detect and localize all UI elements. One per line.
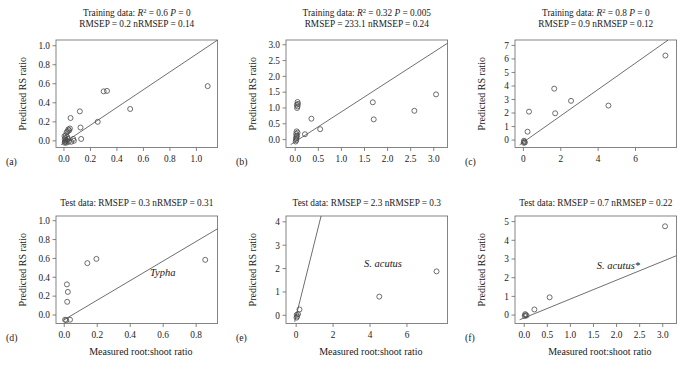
- data-point-marker: [78, 125, 83, 130]
- x-tick-label: 0.4: [111, 154, 123, 164]
- y-axis-label: Predicted RS ratio: [17, 233, 28, 306]
- y-tick-label: 1: [505, 291, 510, 301]
- regression-line: [520, 40, 669, 145]
- y-tick-label: 0.0: [38, 136, 50, 146]
- y-tick-label: 0.8: [38, 60, 50, 70]
- chart-panel-d: Test data: RMSEP = 0.3 nRMSEP = 0.310.00…: [0, 192, 230, 383]
- figure-root: Training data: R2 = 0.6 P = 0RMSEP = 0.2…: [0, 0, 689, 383]
- y-tick-label: 0.0: [268, 135, 280, 145]
- data-point-marker: [411, 108, 416, 113]
- y-tick-label: 4: [505, 235, 510, 245]
- panel-title-line1: Test data: RMSEP = 2.3 nRMSEP = 0.3: [292, 198, 441, 208]
- x-axis-label: Measured root:shoot ratio: [548, 345, 651, 356]
- panel-title-line1: Training data: R2 = 0.32 P = 0.005: [302, 7, 431, 19]
- y-tick-label: 2.0: [268, 72, 280, 82]
- y-tick-label: 0.6: [38, 253, 50, 263]
- x-axis: 0246: [293, 323, 409, 339]
- y-axis: 0.00.51.01.52.02.53.0: [268, 40, 286, 145]
- x-tick-label: 1.0: [565, 329, 577, 339]
- y-tick-label: 2: [505, 272, 510, 282]
- x-axis: 0.00.20.40.60.81.0: [58, 148, 202, 164]
- y-axis: 0.00.20.40.60.81.0: [38, 216, 56, 320]
- x-axis-label: Measured root:shoot ratio: [319, 345, 422, 356]
- x-tick-label: 1.5: [588, 329, 600, 339]
- x-tick-label: 4: [367, 329, 372, 339]
- y-tick-label: 3: [505, 254, 510, 264]
- y-tick-label: 1.0: [38, 41, 50, 51]
- data-point-marker: [371, 117, 376, 122]
- x-tick-label: 0.2: [91, 329, 103, 339]
- chart-panel-e: Test data: RMSEP = 2.3 nRMSEP = 0.302460…: [230, 192, 460, 383]
- data-point-marker: [65, 299, 70, 304]
- y-axis: 01234567: [505, 41, 516, 146]
- x-axis: 0.00.51.01.52.02.53.0: [519, 323, 669, 339]
- data-points: [62, 84, 210, 146]
- panel-title-line1: Test data: RMSEP = 0.7 nRMSEP = 0.22: [519, 198, 672, 208]
- y-tick-label: 3: [505, 95, 510, 105]
- y-axis: 012345: [505, 216, 516, 319]
- x-axis-label: Measured root:shoot ratio: [89, 345, 192, 356]
- y-tick-label: 0.2: [38, 117, 50, 127]
- data-points: [63, 256, 208, 322]
- y-axis-label: Predicted RS ratio: [476, 57, 487, 130]
- x-tick-label: 2: [559, 154, 564, 164]
- y-tick-label: 3: [275, 240, 280, 250]
- regression-line: [290, 43, 447, 144]
- data-point-marker: [434, 268, 439, 273]
- species-annotation: S. acutus: [364, 257, 402, 268]
- y-tick-label: 5: [505, 68, 510, 78]
- y-axis-label: Predicted RS ratio: [247, 57, 258, 130]
- y-tick-label: 2.5: [268, 56, 280, 66]
- y-tick-label: 0: [505, 135, 510, 145]
- regression-line: [294, 216, 320, 322]
- panel-title-line2: RMSEP = 0.9 nRMSEP = 0.12: [539, 19, 654, 29]
- x-tick-label: 0.5: [312, 154, 324, 164]
- plot-frame: [515, 216, 677, 324]
- panel-title-line1: Training data: R2 = 0.6 P = 0: [83, 7, 191, 19]
- y-tick-label: 2: [505, 108, 510, 118]
- data-point-marker: [68, 317, 73, 322]
- y-tick-label: 6: [505, 54, 510, 64]
- x-tick-label: 0.6: [138, 154, 150, 164]
- x-tick-label: 0.0: [519, 329, 531, 339]
- plot-frame: [56, 216, 218, 324]
- x-tick-label: 4: [596, 154, 601, 164]
- x-tick-label: 0.8: [164, 154, 176, 164]
- data-point-marker: [663, 223, 668, 228]
- x-tick-label: 2.0: [611, 329, 623, 339]
- y-tick-label: 0.8: [38, 234, 50, 244]
- x-tick-label: 0.6: [157, 329, 169, 339]
- x-tick-label: 1.5: [358, 154, 370, 164]
- data-point-marker: [606, 103, 611, 108]
- x-tick-label: 2.5: [634, 329, 646, 339]
- data-point-marker: [370, 100, 375, 105]
- data-point-marker: [205, 84, 210, 89]
- x-tick-label: 0.0: [58, 329, 70, 339]
- x-tick-label: 0.5: [542, 329, 554, 339]
- x-tick-label: 2.0: [381, 154, 393, 164]
- panel-title-line1: Training data: R2 = 0.8 P = 0: [542, 7, 650, 19]
- x-tick-label: 0.8: [190, 329, 202, 339]
- y-tick-label: 2: [275, 263, 280, 273]
- y-tick-label: 4: [275, 217, 280, 227]
- y-axis: 01234: [275, 217, 286, 320]
- x-tick-label: 6: [404, 329, 409, 339]
- data-point-marker: [128, 106, 133, 111]
- data-point-marker: [376, 294, 381, 299]
- x-tick-label: 1.0: [335, 154, 347, 164]
- data-point-marker: [94, 256, 99, 261]
- data-point-marker: [525, 129, 530, 134]
- regression-line: [63, 228, 217, 319]
- panel-letter: (e): [236, 331, 247, 343]
- data-point-marker: [64, 281, 69, 286]
- x-tick-label: 3.0: [428, 154, 440, 164]
- y-tick-label: 0.0: [38, 310, 50, 320]
- panel-letter: (f): [465, 331, 475, 343]
- y-tick-label: 1: [275, 287, 280, 297]
- data-point-marker: [552, 86, 557, 91]
- y-tick-label: 0.2: [38, 291, 50, 301]
- data-point-marker: [433, 92, 438, 97]
- panel-title-line2: RMSEP = 233.1 nRMSEP = 0.24: [304, 19, 429, 29]
- panel-letter: (b): [236, 156, 247, 168]
- chart-panel-c: Training data: R2 = 0.8 P = 0RMSEP = 0.9…: [459, 0, 689, 192]
